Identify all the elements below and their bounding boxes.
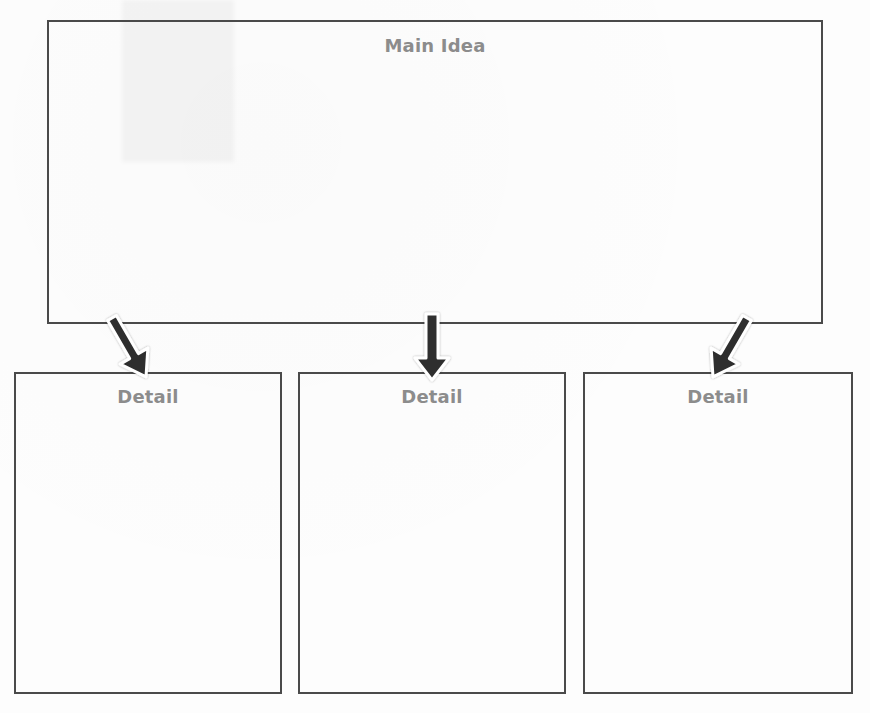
detail-label-3: Detail: [585, 386, 851, 407]
detail-box-3[interactable]: Detail: [583, 372, 853, 694]
main-idea-box[interactable]: Main Idea: [47, 20, 823, 324]
detail-label-1: Detail: [16, 386, 280, 407]
main-idea-label: Main Idea: [49, 35, 821, 56]
detail-box-2[interactable]: Detail: [298, 372, 566, 694]
detail-label-2: Detail: [300, 386, 564, 407]
detail-box-1[interactable]: Detail: [14, 372, 282, 694]
